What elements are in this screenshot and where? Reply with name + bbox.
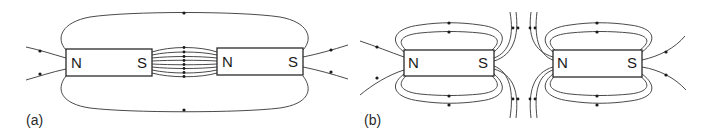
direction-arrow [375,76,378,79]
magnetic-field-diagram: N S N S (a) [0,0,709,136]
north-pole-label: N [222,53,233,70]
direction-arrow [182,108,185,111]
bar-magnet-a1: N S [66,49,152,76]
field-line-right-lower [303,67,348,79]
panel-a: N S N S (a) [26,11,348,128]
field-line-top-loop [61,13,308,51]
panel-label-a: (a) [26,112,43,128]
south-pole-label: S [288,53,298,70]
panel-label-b: (b) [364,112,381,128]
direction-arrow [182,11,185,14]
field-line-right-upper [303,45,348,57]
direction-arrow [664,73,667,76]
field-line-left-upper [360,41,404,57]
direction-arrow [664,50,667,53]
panel-b: N S N S (b) [360,12,686,128]
direction-arrow [329,70,332,73]
north-pole-label: N [557,54,568,71]
field-line-left-lower [26,69,66,80]
south-pole-label: S [627,54,637,71]
north-pole-label: N [408,54,419,71]
direction-arrow [38,72,41,75]
field-line-right-lower [642,67,686,90]
field-line-bottom-loop [61,76,308,112]
field-line-left-upper [26,47,66,58]
direction-arrow [329,48,332,51]
field-line-right-upper [642,36,685,60]
south-pole-label: S [137,54,147,71]
gap-field-lines [152,46,217,78]
north-pole-label: N [71,54,82,71]
direction-arrow [38,49,41,52]
south-pole-label: S [478,54,488,71]
bar-magnet-b2: N S [553,50,642,77]
direction-arrow [375,45,378,48]
bar-magnet-a2: N S [217,48,303,75]
bar-magnet-b1: N S [404,50,494,76]
